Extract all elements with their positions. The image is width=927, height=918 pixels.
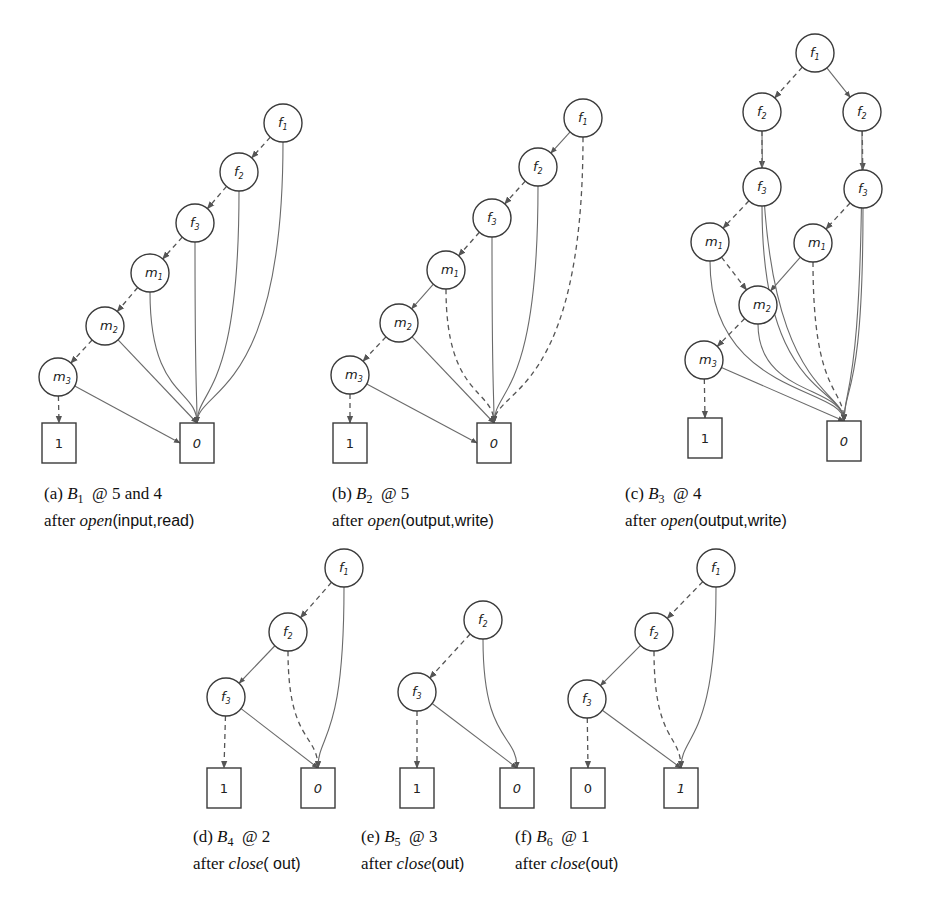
terminal-c-1: 1 — [688, 418, 722, 458]
caption-f: (f) B6 @ 1 after close(out) — [515, 826, 618, 875]
node-subscript: 3 — [358, 375, 363, 384]
edge-f3R-to-t0-solid — [844, 208, 863, 421]
bdd-node-c-f2R: f2 — [843, 93, 881, 131]
terminal-a-1: 1 — [42, 423, 76, 463]
bdd-node-b-f2: f2 — [519, 148, 557, 186]
terminal-label: 0 — [490, 436, 498, 451]
bdd-name: B — [384, 827, 394, 846]
edge-f3-to-t1-solid — [602, 710, 681, 768]
edge-f2-to-t1-dashed — [654, 651, 681, 768]
node-subscript: 1 — [815, 53, 820, 62]
node-subscript: 3 — [226, 697, 231, 706]
edge-f1-to-f2R-solid — [827, 68, 850, 97]
node-subscript: 3 — [492, 218, 497, 227]
terminal-label: 0 — [840, 434, 848, 449]
terminal-b-1: 1 — [333, 423, 367, 463]
bdd-figure: f1f2f3m1m2m310f1f2f3m1m2m310f1f2f2f3f3m1… — [0, 0, 927, 918]
terminal-f-1: 1 — [664, 768, 698, 808]
bdd-node-b-m2: m2 — [380, 304, 418, 342]
bdd-node-a-m1: m1 — [131, 254, 169, 292]
bdd-node-f-f1: f1 — [697, 549, 735, 587]
node-subscript: 1 — [454, 270, 459, 279]
edge-f2-to-f3-solid — [239, 646, 275, 684]
bdd-node-a-m2: m2 — [86, 307, 124, 345]
caption-at: @ 1 — [561, 827, 589, 846]
bdd-node-c-m1R: m1 — [794, 224, 832, 262]
caption-at: @ 5 — [381, 484, 409, 503]
bdd-node-c-m2: m2 — [739, 286, 777, 324]
caption-args: (output,write) — [400, 512, 493, 529]
edge-f3-to-t0-solid — [195, 242, 197, 423]
edge-f2-to-f3-dashed — [505, 181, 526, 204]
edge-m2-to-m3-dashed — [71, 340, 92, 363]
bdd-index: 3 — [659, 492, 665, 506]
edge-f3-to-t1-dashed — [224, 716, 225, 768]
edge-m2-to-m3-dashed — [363, 337, 386, 361]
node-subscript: 1 — [718, 242, 723, 251]
caption-prefix: after — [361, 854, 392, 873]
caption-tag: (b) — [332, 484, 352, 503]
edge-f2-to-t0-dashed — [288, 651, 318, 768]
edge-m2-to-m3-dashed — [717, 319, 744, 347]
bdd-name: B — [536, 827, 546, 846]
bdd-node-b-f1: f1 — [564, 99, 602, 137]
edge-m1-to-m2-dashed — [117, 287, 137, 311]
terminal-e-0: 0 — [500, 768, 534, 808]
terminal-f-0: 0 — [571, 768, 605, 808]
node-subscript: 3 — [762, 187, 767, 196]
caption-a: (a) B1 @ 5 and 4 after open(input,read) — [44, 483, 194, 532]
bdd-name: B — [217, 827, 227, 846]
terminal-label: 1 — [346, 436, 354, 451]
node-subscript: 2 — [483, 620, 488, 629]
edge-m3-to-t1-dashed — [58, 396, 59, 423]
caption-d: (d) B4 @ 2 after close( out) — [193, 826, 301, 875]
node-subscript: 1 — [283, 123, 288, 132]
node-subscript: 2 — [239, 172, 244, 181]
bdd-index: 5 — [395, 835, 401, 849]
edge-f1-to-f2L-dashed — [775, 67, 803, 98]
caption-op: close — [396, 854, 431, 873]
caption-tag: (d) — [193, 827, 213, 846]
node-subscript: 1 — [821, 243, 826, 252]
node-subscript: 3 — [417, 692, 422, 701]
terminal-label: 1 — [220, 781, 228, 796]
edge-f3R-to-m1R-dashed — [826, 203, 850, 229]
bdd-node-c-m3: m3 — [685, 341, 723, 379]
bdd-node-b-f3: f3 — [473, 199, 511, 237]
caption-e: (e) B5 @ 3 after close(out) — [361, 826, 464, 875]
node-subscript: 1 — [158, 273, 163, 282]
edges-layer — [58, 67, 863, 768]
edge-f3-to-m1-dashed — [459, 232, 480, 256]
terminal-label: 0 — [513, 781, 521, 796]
bdd-index: 6 — [547, 835, 553, 849]
bdd-node-c-f3R: f3 — [844, 170, 882, 208]
edge-f1-to-f2-dashed — [667, 582, 703, 619]
bdd-index: 2 — [366, 492, 372, 506]
edge-m3-to-t0-solid — [367, 384, 477, 443]
node-subscript: 2 — [762, 112, 767, 121]
caption-prefix: after — [625, 511, 656, 530]
edge-m1-to-m2-solid — [412, 284, 434, 309]
terminal-label: 0 — [584, 781, 592, 796]
edge-f1-to-t1-solid — [681, 587, 716, 768]
caption-tag: (c) — [625, 484, 644, 503]
node-subscript: 2 — [407, 323, 412, 332]
edge-f1-to-f2-dashed — [252, 137, 271, 158]
caption-args: (out) — [585, 855, 618, 872]
caption-at: @ 2 — [242, 827, 270, 846]
node-subscript: 2 — [538, 167, 543, 176]
caption-prefix: after — [332, 511, 363, 530]
bdd-node-b-m1: m1 — [427, 251, 465, 289]
bdd-name: B — [648, 484, 658, 503]
bdd-node-f-f2: f2 — [635, 613, 673, 651]
caption-at: @ 3 — [409, 827, 437, 846]
terminal-a-0: 0 — [180, 423, 214, 463]
caption-op: open — [79, 511, 112, 530]
edge-m1-to-t0-solid — [150, 292, 197, 423]
nodes-layer: f1f2f3m1m2m310f1f2f3m1m2m310f1f2f2f3f3m1… — [39, 34, 882, 808]
bdd-node-a-f2: f2 — [220, 153, 258, 191]
edge-f1-to-f2-dashed — [301, 582, 332, 617]
edge-m2-to-t0-solid — [412, 337, 494, 423]
terminal-e-1: 1 — [400, 768, 434, 808]
terminal-label: 0 — [193, 436, 201, 451]
